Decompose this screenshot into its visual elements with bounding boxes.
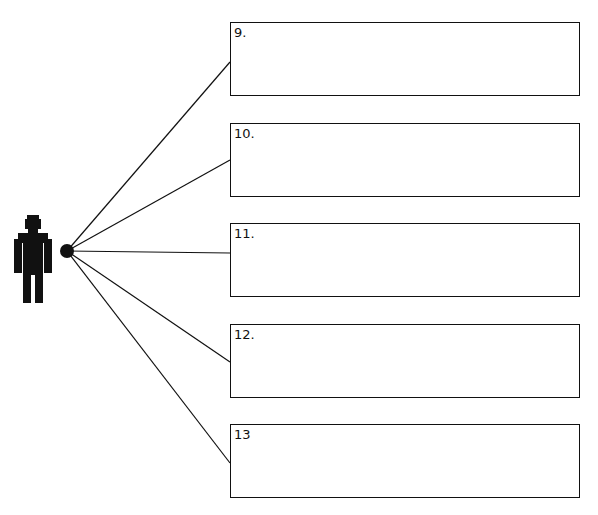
- hub-dot: [60, 244, 74, 258]
- answer-box-11[interactable]: 11.: [230, 223, 580, 297]
- box-number-label: 10.: [234, 126, 255, 141]
- box-number-label: 9.: [234, 25, 246, 40]
- answer-box-10[interactable]: 10.: [230, 123, 580, 197]
- answer-box-9[interactable]: 9.: [230, 22, 580, 96]
- box-number-label: 13: [234, 427, 251, 442]
- box-number-label: 11.: [234, 226, 255, 241]
- answer-box-12[interactable]: 12.: [230, 324, 580, 398]
- person-icon: [12, 215, 60, 305]
- box-number-label: 12.: [234, 327, 255, 342]
- answer-box-13[interactable]: 13: [230, 424, 580, 498]
